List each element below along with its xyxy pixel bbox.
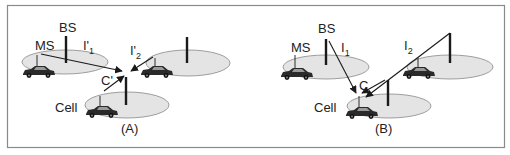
label-bs-a: BS — [59, 20, 77, 35]
label-cell-b: Cell — [314, 100, 337, 115]
caption-b: (B) — [375, 121, 392, 136]
panel-a: BS MS I'1 I'2 C' Cell (A) — [22, 20, 230, 136]
interference-diagram: BS MS I'1 I'2 C' Cell (A) BS MS I1 I2 C — [0, 0, 510, 155]
label-bs-b: BS — [318, 21, 336, 36]
label-ms-a: MS — [35, 38, 55, 53]
panel-b: BS MS I1 I2 C Cell (B) — [281, 21, 493, 136]
label-i2-a: I'2 — [130, 43, 141, 61]
label-c-b: C — [359, 78, 368, 93]
caption-a: (A) — [121, 121, 138, 136]
label-ms-b: MS — [291, 40, 311, 55]
label-i2-b: I2 — [404, 38, 413, 56]
label-c-a: C' — [101, 73, 113, 88]
label-i1-b: I1 — [341, 40, 350, 58]
label-cell-a: Cell — [55, 100, 78, 115]
